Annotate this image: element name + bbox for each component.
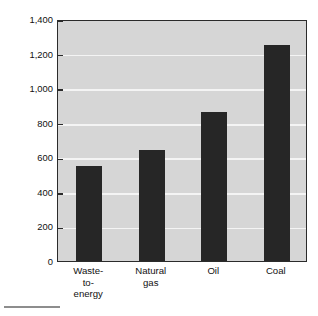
x-axis-tick-label: Coal (245, 265, 308, 277)
x-axis-tick-label: Waste-to-energy (57, 265, 120, 300)
x-axis-tick-label-line: Natural (120, 265, 183, 277)
y-axis-tick-labels: 02004006008001,0001,2001,400 (20, 0, 53, 316)
y-axis-tick-label: 200 (20, 222, 53, 232)
y-axis-tick-mark (58, 55, 63, 56)
x-axis-tick-label-line: Coal (245, 265, 308, 277)
bottom-rule (4, 306, 60, 308)
plot-area (57, 20, 307, 262)
y-axis-tick-mark (58, 159, 63, 160)
x-axis-tick-labels: Waste-to-energyNaturalgasOilCoal (57, 265, 307, 313)
x-axis-tick-label: Naturalgas (120, 265, 183, 288)
y-axis-tick-label: 0 (20, 257, 53, 267)
y-axis-tick-label: 1,200 (20, 50, 53, 60)
y-axis-tick-label: 1,400 (20, 15, 53, 25)
x-axis-tick-label-line: Oil (182, 265, 245, 277)
bar (139, 150, 165, 261)
y-axis-tick-label: 400 (20, 188, 53, 198)
y-axis-tick-label: 800 (20, 119, 53, 129)
y-axis-tick-label: 600 (20, 153, 53, 163)
y-axis-tick-mark (58, 20, 63, 21)
bar (76, 166, 102, 261)
x-axis-tick-label-line: energy (57, 288, 120, 300)
y-axis-tick-mark (58, 124, 63, 125)
plot-inner (58, 21, 306, 261)
y-axis-tick-mark (58, 193, 63, 194)
x-axis-tick-label-line: to- (57, 277, 120, 289)
bar-chart-figure: Carbon dioxide (g per kilowatt-hour) 020… (0, 0, 318, 316)
x-axis-tick-label-line: gas (120, 277, 183, 289)
x-axis-tick-label-line: Waste- (57, 265, 120, 277)
y-axis-tick-mark (58, 89, 63, 90)
y-axis-tick-label: 1,000 (20, 84, 53, 94)
x-axis-tick-label: Oil (182, 265, 245, 277)
bar (201, 112, 227, 261)
bar (264, 45, 290, 261)
y-axis-tick-mark (58, 228, 63, 229)
